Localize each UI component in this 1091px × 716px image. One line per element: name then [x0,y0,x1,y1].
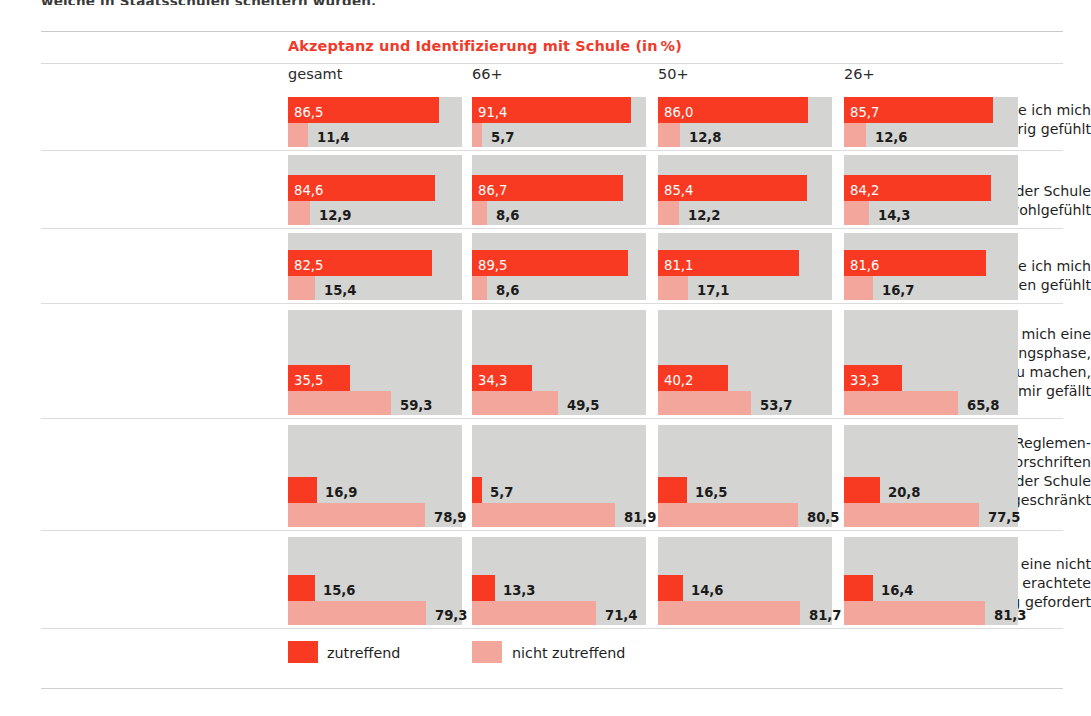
value-zutreffend: 81,6 [850,259,879,272]
bar-zutreffend [844,477,880,503]
bar-nicht-zutreffend [658,201,679,225]
value-nicht-zutreffend: 16,7 [882,284,915,297]
value-zutreffend: 85,4 [664,184,693,197]
bar-zutreffend [288,477,317,503]
value-zutreffend: 33,3 [850,374,879,387]
bar-nicht-zutreffend [288,123,308,147]
value-nicht-zutreffend: 8,6 [496,284,519,297]
legend-label-nicht: nicht zutreffend [512,645,625,661]
bar-nicht-zutreffend [472,201,487,225]
value-nicht-zutreffend: 14,3 [878,209,911,222]
bar-nicht-zutreffend [658,391,751,415]
bar-zutreffend [658,575,683,601]
value-zutreffend: 91,4 [478,106,507,119]
column-header-gesamt: gesamt [288,66,342,82]
value-zutreffend: 81,1 [664,259,693,272]
bar-nicht-zutreffend [288,601,426,625]
legend-swatch-zutreffend [288,641,318,663]
value-zutreffend: 86,7 [478,184,507,197]
value-nicht-zutreffend: 65,8 [967,399,1000,412]
bar-nicht-zutreffend [472,503,615,527]
row-separator [41,228,1063,229]
value-nicht-zutreffend: 12,9 [319,209,352,222]
value-zutreffend: 35,5 [294,374,323,387]
value-nicht-zutreffend: 8,6 [496,209,519,222]
value-nicht-zutreffend: 81,9 [624,511,657,524]
legend-swatch-nicht [472,641,502,663]
rule-under-section-title [41,63,1063,64]
section-title: Akzeptanz und Identifizierung mit Schule… [288,38,682,54]
value-nicht-zutreffend: 5,7 [491,131,514,144]
bar-zutreffend [288,575,315,601]
row-separator [41,628,1063,629]
bar-nicht-zutreffend [844,601,985,625]
value-nicht-zutreffend: 12,8 [689,131,722,144]
value-zutreffend: 16,5 [695,486,728,499]
value-zutreffend: 5,7 [490,486,513,499]
bar-nicht-zutreffend [472,601,596,625]
value-zutreffend: 15,6 [323,584,356,597]
value-zutreffend: 84,6 [294,184,323,197]
value-zutreffend: 13,3 [503,584,536,597]
value-nicht-zutreffend: 77,5 [988,511,1021,524]
legend-label-zutreffend: zutreffend [327,645,400,661]
rule-top [41,31,1063,32]
value-nicht-zutreffend: 81,7 [809,609,842,622]
top-caption: welche in Staatsschulen scheitern würden… [41,0,601,5]
value-nicht-zutreffend: 17,1 [697,284,730,297]
column-header-50plus: 50+ [658,66,689,82]
row-separator [41,418,1063,419]
value-nicht-zutreffend: 12,6 [875,131,908,144]
value-zutreffend: 82,5 [294,259,323,272]
bar-zutreffend [844,575,873,601]
value-nicht-zutreffend: 79,3 [435,609,468,622]
value-nicht-zutreffend: 80,5 [807,511,840,524]
bar-nicht-zutreffend [844,276,873,300]
bar-nicht-zutreffend [472,391,558,415]
value-zutreffend: 14,6 [691,584,724,597]
row-separator [41,150,1063,151]
value-zutreffend: 84,2 [850,184,879,197]
value-zutreffend: 20,8 [888,486,921,499]
column-header-26plus: 26+ [844,66,875,82]
bar-nicht-zutreffend [288,391,391,415]
value-zutreffend: 16,9 [325,486,358,499]
bar-nicht-zutreffend [844,201,869,225]
row-separator [41,530,1063,531]
bar-nicht-zutreffend [844,123,866,147]
bar-zutreffend [472,477,482,503]
bar-nicht-zutreffend [288,201,310,225]
value-zutreffend: 89,5 [478,259,507,272]
value-nicht-zutreffend: 49,5 [567,399,600,412]
bar-nicht-zutreffend [844,391,958,415]
bar-nicht-zutreffend [658,123,680,147]
bar-nicht-zutreffend [472,123,482,147]
value-nicht-zutreffend: 59,3 [400,399,433,412]
value-zutreffend: 16,4 [881,584,914,597]
value-nicht-zutreffend: 53,7 [760,399,793,412]
value-zutreffend: 86,0 [664,106,693,119]
value-nicht-zutreffend: 78,9 [434,511,467,524]
row-separator [41,303,1063,304]
value-zutreffend: 85,7 [850,106,879,119]
value-nicht-zutreffend: 12,2 [688,209,721,222]
value-zutreffend: 86,5 [294,106,323,119]
bar-nicht-zutreffend [658,503,798,527]
bar-nicht-zutreffend [472,276,487,300]
value-nicht-zutreffend: 11,4 [317,131,350,144]
value-nicht-zutreffend: 15,4 [324,284,357,297]
chart-root: welche in Staatsschulen scheitern würden… [0,0,1091,716]
value-zutreffend: 34,3 [478,374,507,387]
bar-nicht-zutreffend [658,276,688,300]
bar-zutreffend [658,477,687,503]
bar-nicht-zutreffend [844,503,979,527]
bar-zutreffend [472,575,495,601]
column-header-66plus: 66+ [472,66,503,82]
rule-bottom [41,688,1063,689]
value-zutreffend: 40,2 [664,374,693,387]
bar-nicht-zutreffend [288,276,315,300]
bar-nicht-zutreffend [288,503,425,527]
bar-nicht-zutreffend [658,601,800,625]
value-nicht-zutreffend: 71,4 [605,609,638,622]
value-nicht-zutreffend: 81,3 [994,609,1027,622]
